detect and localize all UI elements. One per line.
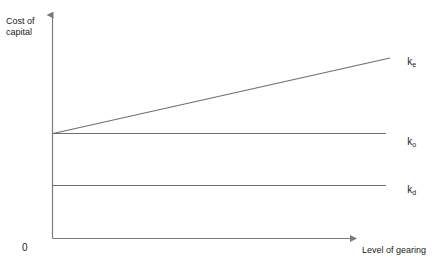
series-label-kd: kd xyxy=(396,173,416,206)
cost-of-capital-gearing-chart: Cost of capital Level of gearing 0 ke ko… xyxy=(0,0,442,265)
series-label-ko-subscript: o xyxy=(412,141,416,148)
chart-canvas xyxy=(0,0,442,265)
series-line-ke xyxy=(53,58,390,134)
series-label-ke-subscript: e xyxy=(412,61,416,68)
y-axis-label: Cost of capital xyxy=(6,16,35,38)
series-label-ko: ko xyxy=(396,125,416,158)
x-axis-label: Level of gearing xyxy=(362,245,426,256)
series-label-ke: ke xyxy=(396,45,416,78)
origin-label: 0 xyxy=(22,242,28,253)
series-label-kd-subscript: d xyxy=(412,189,416,196)
